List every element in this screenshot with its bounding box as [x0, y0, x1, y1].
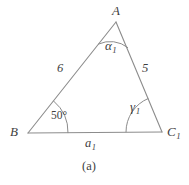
angle-label-alpha1: α1: [105, 39, 116, 52]
triangle-drawing: [0, 0, 189, 185]
triangle-figure: A B C1 6 5 a1 α1 50° γ1 (a): [0, 0, 189, 185]
side-label-BC: a1: [85, 137, 96, 150]
vertex-label-B: B: [10, 125, 18, 138]
figure-caption: (a): [82, 160, 96, 173]
angle-label-alpha1-subscript: 1: [112, 45, 116, 55]
side-BC-line: [28, 132, 162, 133]
angle-label-beta: 50°: [51, 110, 67, 122]
angle-label-alpha1-base: α: [105, 38, 112, 53]
angle-label-gamma1-subscript: 1: [136, 106, 140, 116]
vertex-label-C1-base: C: [167, 124, 176, 139]
side-label-AB: 6: [57, 62, 63, 75]
vertex-label-A: A: [112, 4, 120, 17]
vertex-label-C1: C1: [167, 125, 180, 138]
vertex-label-C1-subscript: 1: [176, 131, 180, 141]
angle-label-gamma1: γ1: [130, 100, 140, 113]
angle-label-gamma1-base: γ: [130, 99, 135, 114]
side-AB-line: [28, 22, 116, 133]
side-label-BC-subscript: 1: [92, 142, 96, 152]
side-label-AC: 5: [142, 62, 148, 75]
side-label-BC-base: a: [85, 136, 91, 150]
